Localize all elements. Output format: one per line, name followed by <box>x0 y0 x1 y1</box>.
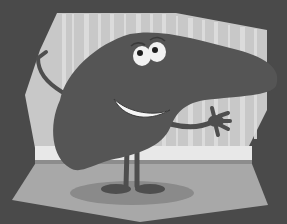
floor-shadow <box>70 181 194 205</box>
left-eye <box>133 46 151 66</box>
left-foot <box>101 184 131 194</box>
right-pupil <box>152 47 158 53</box>
right-foot <box>135 184 165 194</box>
illustration <box>0 0 287 224</box>
liver-character-illustration <box>0 0 287 224</box>
left-pupil <box>137 50 143 56</box>
